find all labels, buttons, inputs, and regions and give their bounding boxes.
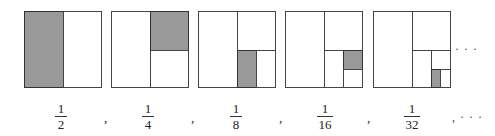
fraction-1-4: 1 4 bbox=[133, 102, 163, 131]
region bbox=[440, 69, 451, 89]
separator-comma: , bbox=[104, 110, 107, 126]
denominator: 2 bbox=[46, 117, 76, 131]
square-3 bbox=[198, 11, 275, 88]
continuation-dots-fractions: , · · · bbox=[452, 110, 483, 125]
region bbox=[373, 11, 413, 88]
region bbox=[256, 50, 277, 89]
separator-comma: , bbox=[279, 110, 282, 126]
numerator: 1 bbox=[133, 102, 163, 116]
shaded-region-1-16 bbox=[343, 50, 364, 70]
denominator: 32 bbox=[397, 117, 427, 131]
denominator: 8 bbox=[221, 117, 251, 131]
separator-comma: , bbox=[191, 110, 194, 126]
region bbox=[285, 11, 325, 88]
shaded-region-1-8 bbox=[237, 50, 257, 89]
region bbox=[412, 50, 432, 89]
numerator: 1 bbox=[221, 102, 251, 116]
region bbox=[237, 11, 277, 51]
region bbox=[343, 69, 364, 89]
denominator: 16 bbox=[310, 117, 340, 131]
region bbox=[431, 50, 452, 70]
region bbox=[324, 11, 364, 51]
numerator: 1 bbox=[46, 102, 76, 116]
square-5 bbox=[373, 11, 450, 88]
separator-comma: , bbox=[367, 110, 370, 126]
fraction-1-16: 1 16 bbox=[310, 102, 340, 131]
continuation-dots-squares: · · · bbox=[455, 42, 478, 57]
fraction-1-32: 1 32 bbox=[397, 102, 427, 131]
square-4 bbox=[285, 11, 362, 88]
fraction-1-2: 1 2 bbox=[46, 102, 76, 131]
denominator: 4 bbox=[133, 117, 163, 131]
region bbox=[111, 11, 151, 88]
region bbox=[198, 11, 238, 88]
fraction-1-8: 1 8 bbox=[221, 102, 251, 131]
square-2 bbox=[111, 11, 188, 88]
region bbox=[324, 50, 344, 89]
region bbox=[150, 50, 190, 89]
numerator: 1 bbox=[397, 102, 427, 116]
shaded-region-1-4 bbox=[150, 11, 190, 51]
region bbox=[412, 11, 452, 51]
square-1 bbox=[24, 11, 101, 88]
shaded-region-1-2 bbox=[24, 11, 64, 88]
region bbox=[63, 11, 103, 88]
numerator: 1 bbox=[310, 102, 340, 116]
